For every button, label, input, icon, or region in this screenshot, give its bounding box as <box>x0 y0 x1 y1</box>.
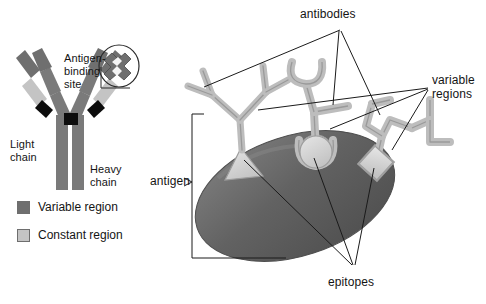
heavy-chain-label-line1: Heavy <box>90 163 122 176</box>
hinge-center <box>64 113 78 125</box>
epitopes-label: epitopes <box>328 276 374 289</box>
legend-label-variable-region: Variable region <box>38 200 118 214</box>
antigen-binding-site-label-line2: binding <box>64 65 100 78</box>
light-chain-label-line1: Light <box>10 138 34 151</box>
antigen-label: antigen <box>150 175 190 188</box>
antigen-binding-site-label-line1: Antigen- <box>64 52 106 65</box>
variable-region-swatch <box>17 201 30 214</box>
antibodies-label: antibodies <box>300 8 356 21</box>
heavy-chain-stem-left <box>56 115 68 190</box>
constant-region-swatch <box>17 229 30 242</box>
variable-regions-label-line1: variable <box>432 74 475 87</box>
heavy-chain-stem-right <box>72 115 84 190</box>
legend-item-variable-region: Variable region <box>17 200 118 214</box>
light-chain-label-line2: chain <box>10 151 37 164</box>
variable-regions-label-line2: regions <box>432 88 472 101</box>
immunology-figure <box>0 0 486 304</box>
heavy-chain-label-line2: chain <box>90 176 117 189</box>
legend-item-constant-region: Constant region <box>17 228 123 242</box>
legend-label-constant-region: Constant region <box>38 228 123 242</box>
antigen-binding-site-label-line3: site <box>64 78 82 91</box>
